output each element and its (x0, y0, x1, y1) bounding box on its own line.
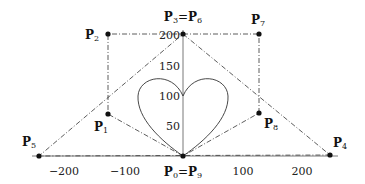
label-p3-p6: P3=P6 (164, 10, 202, 25)
point-p1 (105, 111, 110, 116)
label-p5: P5 (22, 135, 36, 150)
x-tick-neg100: −100 (110, 165, 140, 178)
label-p0-p9: P0=P9 (164, 165, 202, 180)
point-p4 (327, 152, 332, 157)
y-tick-200: 200 (159, 29, 180, 42)
point-p8 (256, 110, 261, 115)
y-tick-150: 150 (159, 60, 180, 73)
x-tick-200: 200 (292, 165, 313, 178)
point-p5 (36, 153, 41, 158)
control-points (36, 31, 332, 158)
point-p3-p6 (180, 31, 185, 36)
label-p2: P2 (85, 28, 99, 43)
point-p2 (105, 31, 110, 36)
label-p8: P8 (264, 117, 278, 132)
x-tick-neg200: −200 (49, 165, 79, 178)
bezier-heart-diagram: 200 150 100 50 −200 −100 100 200 P0=P9 P… (0, 0, 365, 184)
point-p0-p9 (180, 153, 185, 158)
y-tick-50: 50 (166, 120, 180, 133)
label-p7: P7 (251, 13, 265, 28)
point-p7 (256, 31, 261, 36)
y-tick-100: 100 (159, 90, 180, 103)
x-tick-100: 100 (233, 165, 254, 178)
label-p4: P4 (333, 136, 347, 151)
control-polygon (39, 34, 330, 156)
label-p1: P1 (94, 120, 108, 135)
